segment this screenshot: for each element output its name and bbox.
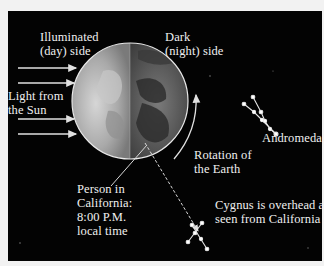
illuminated-side-label: Illuminated (day) side (40, 30, 99, 58)
dark-side-label: Dark (night) side (165, 30, 223, 58)
andromeda-label: Andromeda (262, 131, 322, 145)
diagram-panel: Illuminated (day) side Dark (night) side… (8, 11, 322, 261)
light-from-sun-label: Light from the Sun (8, 89, 64, 117)
earth-globe (68, 41, 200, 166)
person-label: Person in California: 8:00 P.M. local ti… (77, 182, 132, 238)
andromeda-constellation (242, 95, 278, 136)
cygnus-label: Cygnus is overhead as seen from Californ… (215, 198, 322, 226)
rotation-label: Rotation of the Earth (194, 148, 252, 176)
zenith-dashed-line (145, 143, 198, 231)
cygnus-constellation (186, 221, 209, 251)
